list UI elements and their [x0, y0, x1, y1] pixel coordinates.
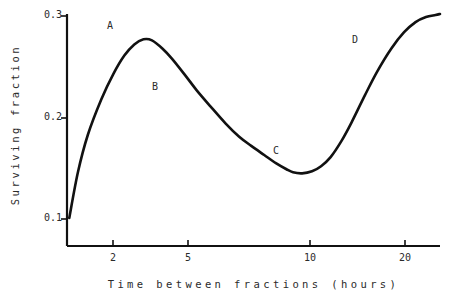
- y-tick-label-0.3: 0.3: [28, 9, 62, 20]
- chart-figure: Surviving fraction 0.3 0.2 0.1 2 5 10 20…: [0, 0, 454, 305]
- x-tick-label-20: 20: [385, 252, 425, 263]
- survival-curve: [69, 14, 440, 218]
- x-tick-label-10: 10: [290, 252, 330, 263]
- curve-label-a: A: [103, 20, 117, 31]
- x-tick-label-2: 2: [93, 252, 133, 263]
- x-tick-label-5: 5: [168, 252, 208, 263]
- y-tick-label-0.2: 0.2: [28, 111, 62, 122]
- curve-label-c: C: [269, 145, 283, 156]
- x-axis-label: Time between fractions (hours): [67, 278, 440, 290]
- y-axis-label-container: Surviving fraction: [0, 0, 30, 250]
- curve-label-d: D: [348, 34, 362, 45]
- curve-label-b: B: [148, 81, 162, 92]
- y-axis-label: Surviving fraction: [9, 45, 21, 206]
- y-axis-tick-labels: 0.3 0.2 0.1: [28, 0, 62, 260]
- y-tick-label-0.1: 0.1: [28, 212, 62, 223]
